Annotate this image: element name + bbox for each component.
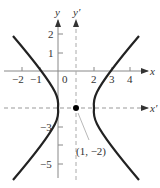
y-tick-label: −5	[40, 158, 52, 170]
center-point	[73, 105, 79, 111]
center-point-label: (1, −2)	[76, 145, 106, 158]
x-prime-axis-label: x′	[149, 102, 158, 114]
y-ticks	[58, 34, 63, 164]
x-tick-label: −1	[30, 73, 42, 85]
hyperbola-diagram: −2 −1 0 2 3 4 2 1 −3 −5 x y x′ y′ (1, −2…	[0, 0, 160, 188]
x-tick-label: 3	[109, 73, 115, 85]
x-axis-label: x	[149, 65, 155, 77]
x-tick-label: 2	[91, 73, 97, 85]
x-tick-label: 4	[127, 73, 133, 85]
y-axis-label: y	[54, 6, 60, 18]
y-tick-label: 2	[48, 28, 54, 40]
x-tick-label: −2	[12, 73, 24, 85]
y-tick-label: 1	[48, 47, 54, 59]
x-tick-label: 0	[62, 73, 68, 85]
y-prime-axis-label: y′	[72, 6, 81, 18]
leader-line	[78, 113, 89, 140]
